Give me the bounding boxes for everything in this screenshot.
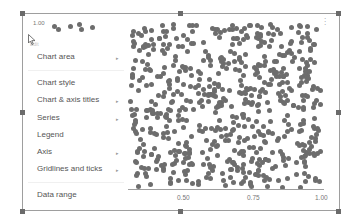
data-point	[213, 94, 218, 99]
data-point	[301, 107, 306, 112]
menu-item-legend[interactable]: Legend	[37, 130, 64, 139]
x-tick-label: 0.75	[247, 194, 260, 201]
resize-handle-middle-right[interactable]	[336, 110, 341, 115]
data-point	[131, 29, 136, 34]
data-point	[314, 132, 319, 137]
data-point	[165, 46, 170, 51]
data-point	[288, 41, 293, 46]
data-point	[286, 156, 291, 161]
data-point	[156, 93, 161, 98]
data-point	[264, 175, 269, 180]
data-point	[315, 86, 320, 91]
menu-item-axis[interactable]: Axis	[37, 147, 52, 156]
data-point	[242, 124, 247, 129]
data-point	[271, 32, 276, 37]
data-point	[276, 136, 281, 141]
data-point	[286, 122, 291, 127]
data-point	[225, 159, 230, 164]
data-point	[220, 171, 225, 176]
resize-handle-bottom-right[interactable]	[336, 209, 341, 214]
data-point	[206, 99, 211, 104]
data-point	[134, 131, 139, 136]
x-tick-label: 1.00	[315, 194, 328, 201]
more-options-icon[interactable]: ···	[324, 17, 326, 26]
menu-item-data-range[interactable]: Data range	[37, 190, 77, 199]
data-point	[281, 158, 286, 163]
data-point	[140, 127, 145, 132]
data-point	[299, 75, 304, 80]
data-point	[140, 59, 145, 64]
data-point	[189, 73, 194, 78]
data-point	[130, 113, 135, 118]
submenu-arrow-icon: ▸	[116, 167, 119, 173]
data-point	[184, 178, 189, 183]
data-point	[305, 35, 310, 40]
data-point	[268, 22, 273, 27]
data-point	[128, 99, 133, 104]
data-point	[161, 71, 166, 76]
data-point	[220, 87, 225, 92]
data-point	[223, 126, 228, 131]
data-point	[285, 80, 290, 85]
data-point	[163, 34, 168, 39]
data-point	[241, 149, 246, 154]
data-point	[237, 68, 242, 73]
submenu-arrow-icon: ▸	[116, 150, 119, 156]
data-point	[266, 82, 271, 87]
menu-divider	[28, 70, 124, 71]
data-point	[292, 55, 297, 60]
data-point	[212, 139, 217, 144]
data-point	[132, 122, 137, 127]
data-point	[172, 129, 177, 134]
data-point	[303, 69, 308, 74]
data-point	[132, 41, 137, 46]
data-point	[188, 99, 193, 104]
data-point	[221, 178, 226, 183]
data-point	[174, 158, 179, 163]
data-point	[234, 115, 239, 120]
data-point	[144, 83, 149, 88]
data-point	[231, 120, 236, 125]
data-point	[145, 62, 150, 67]
resize-handle-top-center[interactable]	[178, 11, 183, 16]
data-point	[159, 163, 164, 168]
data-point	[196, 179, 201, 184]
data-point	[181, 82, 186, 87]
resize-handle-bottom-center[interactable]	[178, 209, 183, 214]
menu-item-gridlines-ticks[interactable]: Gridlines and ticks	[37, 164, 102, 173]
data-point	[226, 61, 231, 66]
resize-handle-top-right[interactable]	[336, 11, 341, 16]
data-point	[141, 154, 146, 159]
data-point	[149, 28, 154, 33]
data-point	[173, 58, 178, 63]
resize-handle-top-left[interactable]	[20, 11, 25, 16]
data-point	[180, 44, 185, 49]
resize-handle-bottom-left[interactable]	[20, 209, 25, 214]
data-point	[228, 175, 233, 180]
data-point	[269, 38, 274, 43]
data-point	[256, 129, 261, 134]
data-point	[190, 29, 195, 34]
data-point	[252, 87, 257, 92]
menu-item-chart-axis-titles[interactable]: Chart & axis titles	[37, 95, 99, 104]
data-point	[313, 139, 318, 144]
data-point	[134, 173, 139, 178]
data-point	[149, 37, 154, 42]
data-point	[169, 100, 174, 105]
data-point	[200, 150, 205, 155]
menu-item-chart-area[interactable]: Chart area	[37, 52, 75, 61]
data-point	[300, 93, 305, 98]
data-point	[235, 168, 240, 173]
data-point	[291, 103, 296, 108]
data-point	[242, 138, 247, 143]
data-point	[181, 160, 186, 165]
menu-item-chart-style[interactable]: Chart style	[37, 78, 75, 87]
menu-item-series[interactable]: Series	[37, 113, 60, 122]
data-point	[247, 170, 252, 175]
data-point	[213, 110, 218, 115]
data-point	[250, 124, 255, 129]
x-tick-label: 0.50	[177, 194, 190, 201]
data-point	[305, 24, 310, 29]
data-point	[297, 66, 302, 71]
data-point	[133, 58, 138, 63]
